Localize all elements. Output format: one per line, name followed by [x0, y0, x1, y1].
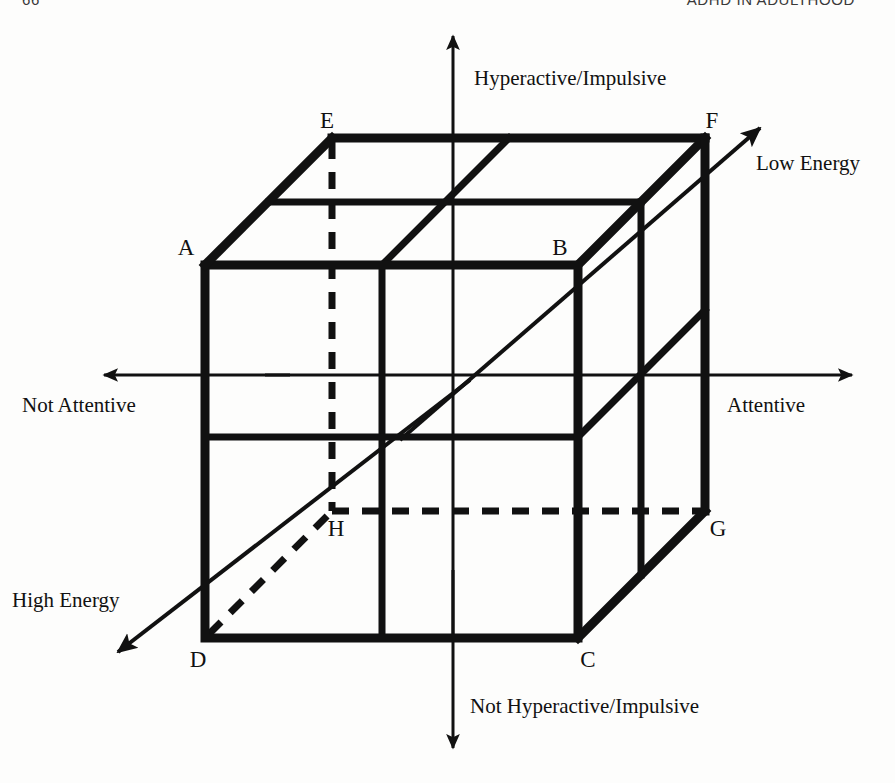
axis-label-low-energy: Low Energy: [756, 151, 861, 175]
vertex-label-E: E: [320, 108, 334, 133]
axis-label-not-hyperactive-impulsive: Not Hyperactive/Impulsive: [470, 694, 699, 718]
axis-labels: Hyperactive/Impulsive Not Hyperactive/Im…: [12, 66, 861, 718]
axis-label-hyperactive-impulsive: Hyperactive/Impulsive: [474, 66, 666, 90]
adhd-cube-diagram: A B C D E F G H Hyperactive/Impulsive No…: [0, 0, 895, 783]
vertex-label-G: G: [710, 516, 727, 541]
figure-page: 66 ADHD IN ADULTHOOD: [0, 0, 895, 783]
vertex-label-H: H: [328, 516, 345, 541]
axis-label-not-attentive: Not Attentive: [22, 393, 136, 417]
vertex-label-D: D: [190, 647, 207, 672]
axis-label-high-energy: High Energy: [12, 588, 120, 612]
vertex-label-F: F: [706, 108, 719, 133]
hidden-edge-DH: [209, 513, 330, 634]
depth-axis-line-near: [118, 380, 470, 652]
axis-label-attentive: Attentive: [727, 393, 805, 417]
vertex-label-A: A: [178, 235, 195, 260]
vertex-label-B: B: [552, 235, 567, 260]
vertex-label-C: C: [580, 647, 595, 672]
